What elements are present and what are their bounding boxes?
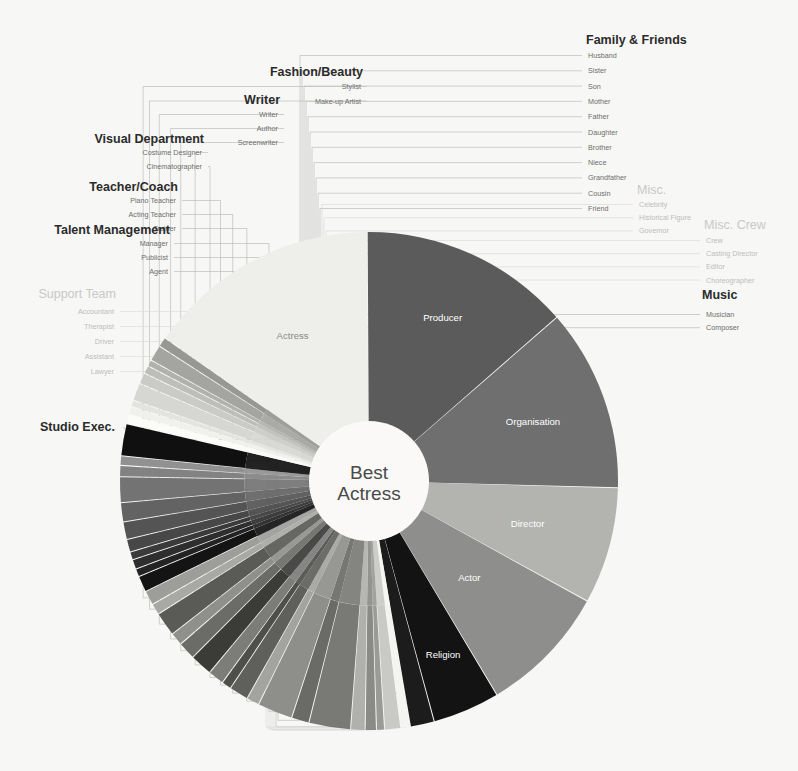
callout-label[interactable]: Agent	[149, 267, 168, 276]
callout-label[interactable]: Therapist	[84, 322, 114, 331]
callout-label[interactable]: Mother	[588, 97, 611, 106]
callout-label[interactable]: Son	[588, 82, 601, 91]
donut-chart: BestActress ActressProducerOrganisationD…	[0, 0, 798, 771]
group-heading-fashion-beauty: Fashion/Beauty	[270, 65, 363, 79]
group-heading-misc-crew: Misc. Crew	[704, 218, 767, 232]
callout-label[interactable]: Costume Designer	[142, 148, 202, 157]
callout-label[interactable]: Composer	[706, 323, 740, 332]
callout-label[interactable]: Accountant	[78, 307, 114, 316]
callout-label[interactable]: Screenwriter	[238, 138, 279, 147]
callout-label[interactable]: Acting Teacher	[129, 210, 177, 219]
slice-label: Actress	[277, 330, 309, 341]
callout-label[interactable]: Friend	[588, 204, 608, 213]
callout-label[interactable]: Author	[257, 124, 279, 133]
slice-label: Actor	[458, 572, 481, 583]
group-heading-misc: Misc.	[637, 183, 666, 197]
callout-label[interactable]: Lawyer	[91, 367, 115, 376]
callout-label[interactable]: Father	[588, 112, 609, 121]
callout-label[interactable]: Niece	[588, 158, 606, 167]
callout-label[interactable]: Stylist	[342, 82, 361, 91]
callout-label[interactable]: Casting Director	[706, 249, 758, 258]
group-heading-studio-exec: Studio Exec.	[40, 420, 115, 434]
slice-label: Organisation	[506, 416, 560, 427]
group-heading-family-friends: Family & Friends	[586, 33, 687, 47]
callout-label[interactable]: Musician	[706, 310, 734, 319]
group-heading-talent-management: Talent Management	[54, 223, 171, 237]
callout-label[interactable]: Governor	[639, 226, 670, 235]
callout-label[interactable]: Cinematographer	[146, 162, 202, 171]
callout-label[interactable]: Crew	[706, 236, 724, 245]
callout-label[interactable]: Assistant	[85, 352, 114, 361]
callout-label[interactable]: Publicist	[141, 253, 168, 262]
center-title-line2: Actress	[337, 483, 400, 504]
callout-label[interactable]: Husband	[588, 51, 617, 60]
group-heading-writer: Writer	[244, 93, 280, 107]
center-hub: BestActress	[309, 421, 429, 541]
callout-label[interactable]: Editor	[706, 262, 725, 271]
callout-label[interactable]: Choreographer	[706, 276, 755, 285]
group-heading-visual-department: Visual Department	[94, 132, 204, 146]
center-title-line1: Best	[350, 462, 389, 483]
callout-label[interactable]: Cousin	[588, 189, 610, 198]
callout-label[interactable]: Historical Figure	[639, 213, 691, 222]
callout-label[interactable]: Writer	[259, 110, 279, 119]
group-heading-support-team: Support Team	[38, 287, 116, 301]
callout-label[interactable]: Brother	[588, 143, 612, 152]
slice-label: Religion	[426, 649, 461, 660]
callout-label[interactable]: Driver	[95, 337, 115, 346]
slice-label: Producer	[423, 312, 463, 323]
callout-label[interactable]: Celebrity	[639, 200, 668, 209]
callout-label[interactable]: Piano Teacher	[130, 196, 176, 205]
group-heading-teacher-coach: Teacher/Coach	[89, 180, 178, 194]
callout-label[interactable]: Sister	[588, 66, 607, 75]
callout-label[interactable]: Make-up Artist	[315, 97, 361, 106]
callout-label[interactable]: Daughter	[588, 128, 618, 137]
callout-label[interactable]: Manager	[140, 239, 169, 248]
chart-canvas: BestActress ActressProducerOrganisationD…	[0, 0, 798, 771]
callout-label[interactable]: Grandfather	[588, 173, 627, 182]
slice-label: Director	[511, 518, 545, 529]
group-heading-music: Music	[702, 288, 737, 302]
